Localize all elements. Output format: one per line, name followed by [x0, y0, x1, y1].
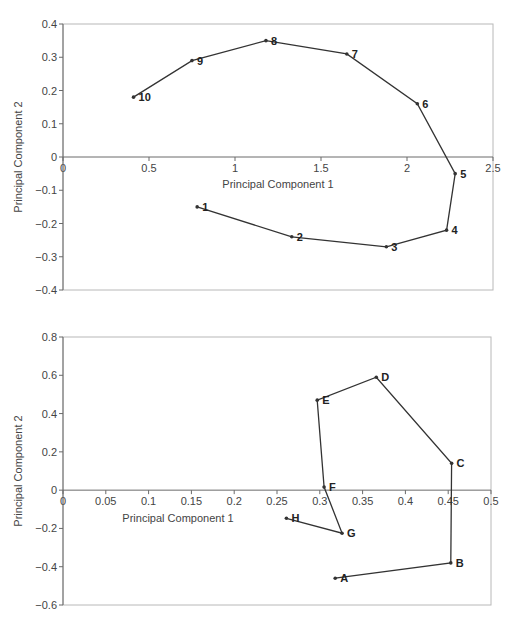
y-axis-ticks: 0.40.30.20.10−0.1−0.2−0.3−0.4	[35, 18, 63, 296]
x-axis-label: Principal Component 1	[122, 512, 233, 524]
y-tick-label: 0.4	[42, 408, 57, 420]
y-tick-label: −0.4	[35, 561, 57, 573]
y-tick-label: 0.4	[42, 18, 57, 30]
y-axis-ticks: 0.80.60.40.20−0.2−0.4−0.6	[35, 331, 63, 611]
data-point-label-4: 4	[452, 224, 459, 236]
data-point-label-6: 6	[422, 98, 428, 110]
data-point-label-8: 8	[271, 35, 277, 47]
x-tick-label: 0.4	[398, 495, 413, 507]
data-point-label-1: 1	[202, 201, 208, 213]
x-tick-label: 0.3	[312, 495, 327, 507]
data-point-label-G: G	[347, 527, 356, 539]
y-tick-label: 0.2	[42, 446, 57, 458]
data-point-marker-F	[322, 485, 326, 489]
data-point-marker-C	[450, 462, 454, 466]
data-point-marker-4	[445, 228, 449, 232]
y-tick-label: −0.2	[35, 522, 57, 534]
data-point-marker-1	[195, 205, 199, 209]
y-tick-label: −0.3	[35, 251, 57, 263]
figure: 0.40.30.20.10−0.1−0.2−0.3−0.4 00.511.522…	[0, 0, 515, 626]
y-axis-label: Principal Component 2	[12, 415, 24, 526]
y-tick-label: −0.1	[35, 184, 57, 196]
x-tick-label: 0.5	[141, 162, 156, 174]
x-axis-ticks: 00.511.522.5	[60, 157, 501, 174]
series-line	[286, 377, 451, 578]
x-tick-label: 2.5	[485, 162, 500, 174]
data-point-label-5: 5	[460, 168, 466, 180]
y-axis-label: Principal Component 2	[12, 101, 24, 212]
plot-area-frame	[63, 337, 491, 605]
x-tick-label: 1	[232, 162, 238, 174]
data-point-marker-G	[340, 531, 344, 535]
data-point-label-A: A	[340, 572, 348, 584]
data-point-label-H: H	[291, 512, 299, 524]
x-tick-label: 0.1	[141, 495, 156, 507]
y-tick-label: 0	[51, 151, 57, 163]
x-tick-label: 2	[404, 162, 410, 174]
data-point-label-10: 10	[139, 91, 151, 103]
data-point-marker-5	[453, 172, 457, 176]
x-tick-label: 0.5	[483, 495, 498, 507]
data-point-label-7: 7	[352, 48, 358, 60]
x-tick-label: 0.2	[227, 495, 242, 507]
y-tick-label: −0.2	[35, 218, 57, 230]
data-point-marker-H	[285, 516, 289, 520]
y-tick-label: 0.1	[42, 118, 57, 130]
data-point-marker-A	[333, 576, 337, 580]
data-point-marker-D	[374, 375, 378, 379]
x-tick-label: 0.35	[352, 495, 373, 507]
chart-bottom-pca-trajectory: 0.80.60.40.20−0.2−0.4−0.6 00.050.10.150.…	[12, 331, 499, 611]
x-tick-label: 0.05	[95, 495, 116, 507]
y-tick-label: 0.8	[42, 331, 57, 343]
data-point-label-F: F	[329, 481, 336, 493]
y-tick-label: 0.2	[42, 85, 57, 97]
data-points: ABCDEFGH	[285, 371, 465, 584]
data-point-marker-E	[315, 398, 319, 402]
chart-top-pca-trajectory: 0.40.30.20.10−0.1−0.2−0.3−0.4 00.511.522…	[12, 18, 501, 296]
x-axis-ticks: 00.050.10.150.20.250.30.350.40.450.5	[60, 490, 499, 507]
data-point-label-E: E	[322, 394, 329, 406]
series-line	[134, 41, 456, 247]
x-tick-label: 1.5	[313, 162, 328, 174]
data-point-marker-B	[449, 561, 453, 565]
data-point-label-D: D	[381, 371, 389, 383]
x-tick-label: 0.15	[181, 495, 202, 507]
y-tick-label: −0.6	[35, 599, 57, 611]
x-tick-label: 0.45	[437, 495, 458, 507]
y-tick-label: −0.4	[35, 284, 57, 296]
data-point-label-9: 9	[197, 55, 203, 67]
data-point-marker-7	[345, 52, 349, 56]
data-point-marker-9	[190, 59, 194, 63]
data-point-label-2: 2	[297, 231, 303, 243]
data-point-marker-3	[385, 245, 389, 249]
data-point-marker-2	[290, 235, 294, 239]
y-tick-label: 0.3	[42, 51, 57, 63]
x-tick-label: 0.25	[266, 495, 287, 507]
data-point-label-C: C	[457, 457, 465, 469]
x-axis-label: Principal Component 1	[222, 178, 333, 190]
y-tick-label: 0.6	[42, 369, 57, 381]
data-point-marker-8	[264, 39, 268, 43]
data-point-marker-10	[132, 95, 136, 99]
data-point-label-3: 3	[391, 241, 397, 253]
data-point-label-B: B	[456, 557, 464, 569]
y-tick-label: 0	[51, 484, 57, 496]
data-point-marker-6	[416, 102, 420, 106]
